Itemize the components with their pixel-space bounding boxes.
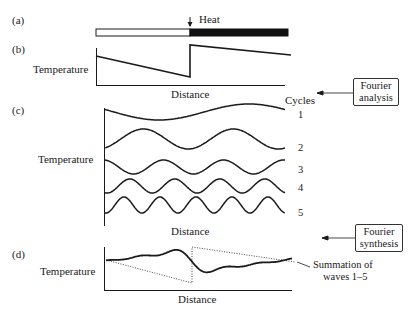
fourier-analysis-box: Fourier analysis — [353, 78, 399, 106]
summation-annotation-line2: waves 1–5 — [323, 271, 368, 283]
panel-a-bar — [96, 17, 288, 36]
fourier-analysis-line1: Fourier — [356, 80, 396, 92]
fourier-synthesis-line2: synthesis — [358, 238, 400, 250]
wave-4-cycles — [105, 179, 285, 193]
panel-b-ylabel: Temperature — [33, 63, 88, 75]
panel-d-ylabel: Temperature — [40, 265, 95, 277]
callout-arrows — [317, 91, 355, 240]
summation-annotation-line1: Summation of — [313, 259, 373, 271]
wave-5-cycles — [105, 197, 285, 213]
panel-c-label: (c) — [12, 104, 24, 116]
panel-d-plot — [104, 247, 310, 291]
cycle-label-5: 5 — [298, 207, 303, 219]
panel-d-label: (d) — [12, 248, 25, 260]
fourier-analysis-line2: analysis — [356, 92, 396, 104]
panel-b-xlabel: Distance — [171, 88, 209, 100]
heat-label: Heat — [199, 13, 220, 25]
panel-d-xlabel: Distance — [178, 293, 216, 305]
wave-3-cycles — [105, 160, 285, 174]
cycle-label-3: 3 — [298, 164, 303, 176]
fourier-synthesis-box: Fourier synthesis — [355, 224, 403, 252]
panel-b-plot — [96, 45, 291, 86]
wave-2-cycles — [105, 129, 285, 149]
cycle-label-4: 4 — [298, 182, 303, 194]
cycle-label-1: 1 — [298, 109, 303, 121]
fourier-synthesis-line1: Fourier — [358, 226, 400, 238]
panel-a-label: (a) — [12, 14, 24, 26]
cycle-label-2: 2 — [298, 142, 303, 154]
panel-c-plot — [105, 104, 286, 226]
wave-1-cycle — [105, 104, 285, 120]
panel-b-label: (b) — [12, 43, 25, 55]
cycles-title: Cycles — [285, 94, 315, 106]
panel-c-ylabel: Temperature — [38, 153, 93, 165]
panel-c-xlabel: Distance — [171, 225, 209, 237]
